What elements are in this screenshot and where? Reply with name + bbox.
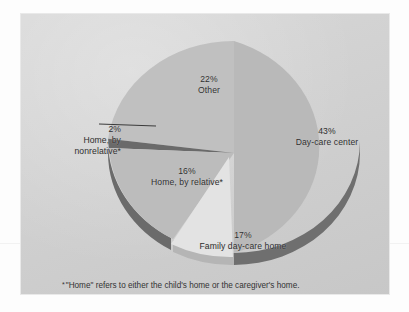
footnote: *"Home" refers to either the child's hom… xyxy=(62,279,390,291)
pie-label-home-by-nonrelative-name-line2: nonrelative* xyxy=(37,146,121,157)
pie-label-family-day-care-home-value: 17% xyxy=(173,230,313,241)
footnote-text: "Home" refers to either the child's home… xyxy=(66,281,300,290)
pie-slice-top-other xyxy=(108,41,234,153)
pie-label-home-by-nonrelative: 2% Home, by nonrelative* xyxy=(37,124,121,157)
footnote-star-marker: * xyxy=(62,279,65,290)
chart-panel: 22% Other 43% Day-care center 2% Home, b… xyxy=(20,13,390,295)
pie-label-home-by-relative: 16% Home, by relative* xyxy=(121,166,253,188)
pie-label-day-care-center-name: Day-care center xyxy=(279,137,375,148)
pie-label-home-by-nonrelative-name-line1: Home, by xyxy=(37,135,121,146)
pie-label-home-by-nonrelative-value: 2% xyxy=(37,124,121,135)
pie-label-day-care-center: 43% Day-care center xyxy=(279,126,375,148)
pie-label-home-by-relative-value: 16% xyxy=(121,166,253,177)
pie-label-family-day-care-home: 17% Family day-care home xyxy=(173,230,313,252)
pie-label-day-care-center-value: 43% xyxy=(279,126,375,137)
pie-label-other-name: Other xyxy=(169,85,249,96)
figure-page: 22% Other 43% Day-care center 2% Home, b… xyxy=(0,0,409,312)
pie-label-family-day-care-home-name: Family day-care home xyxy=(173,241,313,252)
pie-label-other: 22% Other xyxy=(169,74,249,96)
pie-label-other-value: 22% xyxy=(169,74,249,85)
pie-label-home-by-relative-name: Home, by relative* xyxy=(121,177,253,188)
